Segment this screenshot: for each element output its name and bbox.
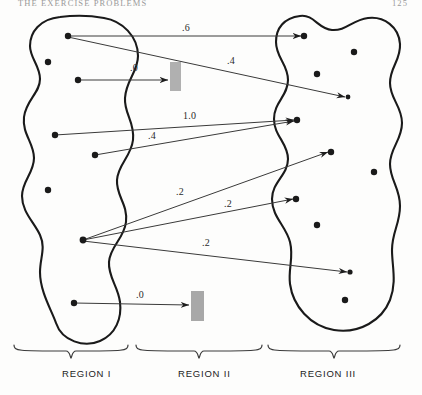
right-node-7 xyxy=(371,169,377,175)
arrow-0-2a-label: .2 xyxy=(176,186,184,197)
region-iii-blob xyxy=(272,16,402,331)
arrow-0-2c-label: .2 xyxy=(202,237,210,248)
right-node-1 xyxy=(301,33,307,39)
left-node-1 xyxy=(65,33,71,39)
right-node-9 xyxy=(314,222,320,228)
region-label-3: REGION III xyxy=(300,368,356,379)
arrow-0-0b xyxy=(74,303,189,305)
left-node-7 xyxy=(80,237,87,244)
region-label-2: REGION II xyxy=(178,368,231,379)
arrow-0-0a-label: .0 xyxy=(130,62,138,73)
right-node-3 xyxy=(314,71,320,77)
arrow-0-2b-label: .2 xyxy=(224,198,232,209)
right-node-5 xyxy=(294,117,300,123)
arrow-0-4 xyxy=(68,37,345,97)
region-ii-bar-bottom xyxy=(191,291,204,321)
region-braces xyxy=(14,345,400,358)
right-node-8 xyxy=(293,196,299,202)
brace-region-ii xyxy=(136,345,262,358)
arrow-1-0-label: 1.0 xyxy=(183,110,196,121)
arrow-0-4b-label: .4 xyxy=(148,130,156,141)
arrow-0-0b-label: .0 xyxy=(136,289,144,300)
arrow-0-6-label: .6 xyxy=(182,22,190,33)
region-transfer-diagram xyxy=(0,0,422,395)
right-node-11 xyxy=(342,297,348,303)
right-node-2 xyxy=(351,49,357,55)
left-node-8 xyxy=(71,300,77,306)
brace-region-iii xyxy=(268,345,400,358)
left-node-6 xyxy=(45,187,51,193)
arrow-0-4-label: .4 xyxy=(227,55,235,66)
right-node-6 xyxy=(328,149,334,155)
arrow-0-2c xyxy=(83,241,347,272)
left-node-2 xyxy=(45,59,51,65)
right-node-10 xyxy=(347,269,352,274)
arrow-0-2b xyxy=(83,199,293,240)
right-node-4 xyxy=(346,95,351,100)
transfer-arrows xyxy=(55,36,347,305)
region-ii-bar-top xyxy=(170,62,181,91)
region-outlines xyxy=(22,16,402,344)
region-i-blob xyxy=(22,16,138,344)
left-node-3 xyxy=(75,77,81,83)
brace-region-i xyxy=(14,345,128,358)
region-iii-nodes xyxy=(293,33,377,303)
left-node-5 xyxy=(92,152,98,158)
left-node-4 xyxy=(52,132,58,138)
region-i-nodes xyxy=(45,33,98,306)
region-label-1: REGION I xyxy=(62,368,111,379)
